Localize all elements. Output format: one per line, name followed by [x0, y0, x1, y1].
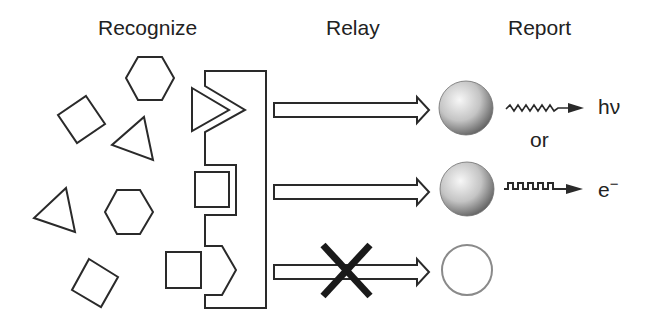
analyte-triangle-1	[112, 117, 153, 160]
analyte-square-2	[72, 259, 118, 307]
photon-signal-arrow	[506, 103, 584, 113]
bound-square	[195, 172, 229, 207]
analyte-triangle-2	[34, 188, 75, 232]
receptor-host	[205, 71, 266, 308]
electron-symbol: e	[598, 178, 610, 201]
or-label: or	[530, 128, 549, 152]
photon-output-label: hν	[598, 95, 620, 119]
relay-arrow-2	[274, 179, 429, 205]
relay-arrow-1	[274, 97, 429, 123]
reporter-sphere-inactive	[442, 245, 492, 295]
reporter-sphere-active-1	[439, 81, 493, 135]
electron-signal-arrow	[504, 183, 583, 194]
analyte-hexagon-1	[126, 57, 174, 100]
reporter-sphere-active-2	[440, 162, 494, 216]
bound-triangle	[192, 88, 229, 131]
electron-charge: −	[610, 175, 619, 192]
electron-output-label: e−	[598, 175, 618, 202]
analyte-square-1	[58, 96, 105, 143]
mismatched-square	[166, 252, 201, 288]
analyte-hexagon-2	[105, 190, 153, 234]
sensor-diagram	[0, 0, 666, 323]
